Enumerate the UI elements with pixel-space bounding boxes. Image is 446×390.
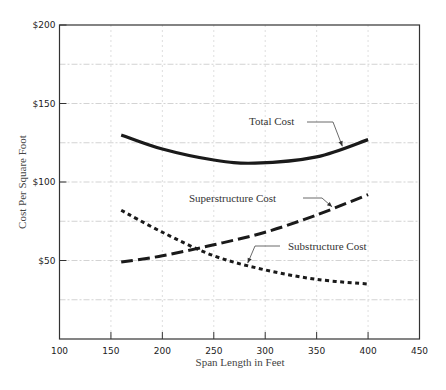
series-line-total-cost	[121, 135, 368, 163]
y-tick-label: $50	[38, 256, 55, 266]
x-tick-label: 150	[102, 346, 119, 356]
x-axis-title: Span Length in Feet	[196, 356, 285, 368]
chart: 100150200250300350400450 $50$100$150$200…	[0, 0, 446, 390]
x-axis: 100150200250300350400450	[51, 332, 428, 356]
x-tick-label: 350	[308, 346, 325, 356]
x-tick-label: 400	[359, 346, 376, 356]
grid-lines	[60, 25, 420, 339]
y-axis-title: Cost Per Square Foot	[16, 135, 28, 229]
y-tick-label: $100	[33, 177, 56, 187]
x-tick-label: 450	[411, 346, 428, 356]
series-lines	[121, 135, 368, 284]
x-tick-label: 300	[257, 346, 274, 356]
leader-line	[303, 198, 332, 207]
x-tick-label: 200	[154, 346, 171, 356]
y-tick-label: $200	[33, 20, 56, 30]
x-tick-label: 250	[205, 346, 222, 356]
annotation-label: Superstructure Cost	[189, 192, 276, 204]
annotations: Total CostSuperstructure CostSubstructur…	[189, 115, 367, 263]
annotation-label: Total Cost	[249, 115, 294, 127]
x-tick-label: 100	[51, 346, 68, 356]
annotation-label: Substructure Cost	[288, 240, 367, 252]
arrowhead-icon	[339, 141, 343, 146]
y-tick-label: $150	[33, 99, 56, 109]
